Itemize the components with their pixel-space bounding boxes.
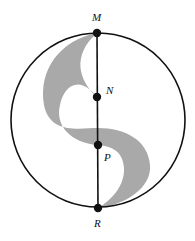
point-N xyxy=(93,93,101,101)
label-M: M xyxy=(91,11,102,23)
point-M xyxy=(93,29,101,37)
diameter-line-MR xyxy=(97,33,98,208)
label-P: P xyxy=(103,151,111,163)
geometry-diagram: M N P R xyxy=(0,0,195,241)
point-P xyxy=(94,141,102,149)
label-N: N xyxy=(105,84,114,96)
label-R: R xyxy=(93,217,101,229)
point-R xyxy=(94,204,102,212)
